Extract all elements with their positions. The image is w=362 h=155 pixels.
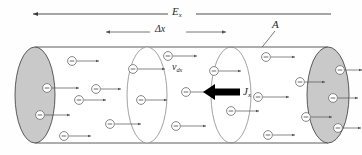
delta-x-label: Δx (155, 24, 165, 34)
current-density-label: Jx (243, 86, 251, 99)
diagram-svg (0, 0, 362, 155)
electron (336, 66, 362, 75)
cross-section-area-label: A (272, 19, 279, 30)
cross-section-slice-1 (127, 47, 167, 143)
left-end-cap (15, 47, 55, 143)
electron (334, 124, 361, 133)
electric-field-label: Ex (172, 6, 182, 19)
drift-velocity-label: vdx (172, 62, 182, 73)
figure-canvas: Ex Δx A vdx Jx (0, 0, 362, 155)
